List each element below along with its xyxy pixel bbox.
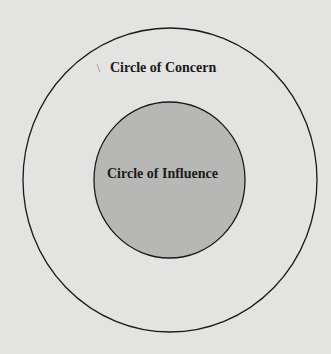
circle-of-concern-label: Circle of Concern	[110, 60, 216, 76]
circle-of-influence-label: Circle of Influence	[107, 166, 218, 182]
